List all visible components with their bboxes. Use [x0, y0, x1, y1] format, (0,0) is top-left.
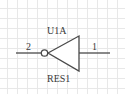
- value-label: RES1: [47, 73, 70, 84]
- designator-label: U1A: [47, 25, 67, 36]
- input-pin-number: 2: [26, 41, 31, 52]
- output-pin-number: 1: [92, 41, 97, 52]
- schematic-canvas[interactable]: U1A RES1 2 1: [0, 0, 125, 94]
- buffer-triangle: [48, 36, 79, 71]
- schematic-svg: U1A RES1 2 1: [0, 0, 125, 94]
